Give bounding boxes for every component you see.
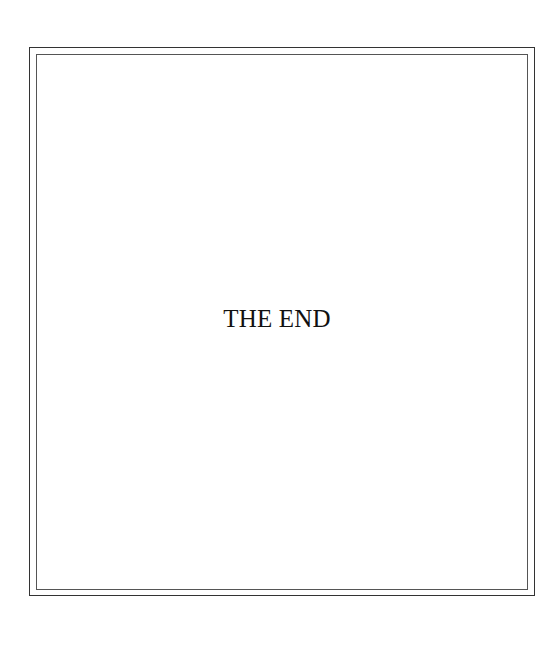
- the-end-text: THE END: [0, 305, 554, 333]
